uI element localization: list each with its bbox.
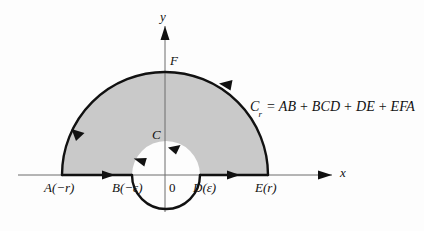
point-label-d: D(ε)	[193, 181, 216, 194]
formula-equals: =	[263, 99, 279, 114]
origin-label: 0	[169, 181, 176, 194]
formula-lhs-subscript: r	[259, 109, 263, 119]
formula-term-3: EFA	[390, 99, 414, 114]
contour-diagram: y x F C A(−r) B(−ε) 0 D(ε) E(r) Cr = AB …	[0, 0, 424, 231]
point-label-a: A(−r)	[44, 181, 74, 194]
arrowhead-inner-arc-cd	[168, 145, 181, 155]
formula-plus-1: +	[296, 99, 312, 114]
formula-plus-3: +	[375, 99, 391, 114]
point-label-c: C	[152, 128, 161, 141]
y-axis-label: y	[160, 10, 166, 23]
contour-formula: Cr = AB + BCD + DE + EFA	[250, 100, 415, 117]
formula-term-2: DE	[356, 99, 375, 114]
point-label-e: E(r)	[255, 181, 277, 194]
x-axis-label: x	[340, 166, 346, 179]
formula-term-0: AB	[279, 99, 297, 114]
formula-term-1: BCD	[312, 99, 341, 114]
formula-plus-2: +	[340, 99, 356, 114]
point-label-b: B(−ε)	[112, 181, 143, 194]
x-axis-arrowhead	[318, 171, 332, 180]
point-label-f: F	[170, 54, 178, 67]
y-axis-arrowhead	[161, 26, 170, 40]
